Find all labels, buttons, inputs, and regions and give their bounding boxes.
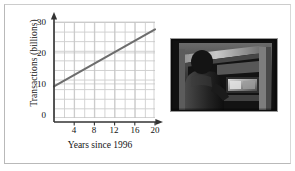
- x-tick-label-16: 16: [127, 125, 143, 135]
- x-tick-label-8: 8: [86, 125, 102, 135]
- x-tick-label-20: 20: [147, 125, 163, 135]
- x-axis-title: Years since 1996: [36, 140, 164, 150]
- chart-axes: [14, 12, 164, 142]
- textbook-figure: Transactions (billions) 30 20 10 0: [0, 0, 295, 171]
- y-axis-arrowhead: [51, 12, 57, 20]
- line-chart: Transactions (billions) 30 20 10 0: [14, 12, 164, 157]
- atm-photo-graphic: [171, 39, 276, 110]
- person-using-atm-photo: [170, 38, 278, 112]
- x-tick-label-4: 4: [66, 125, 82, 135]
- x-tick-label-12: 12: [106, 125, 122, 135]
